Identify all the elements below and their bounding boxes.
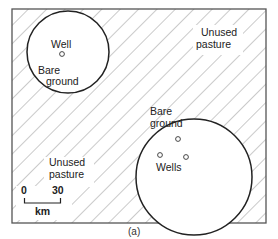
wells-label: Wells — [156, 161, 181, 173]
bare-ground-label-large-1: Bare — [150, 105, 172, 117]
large-bare-ground-area — [136, 119, 252, 235]
unused-pasture-label-top-1: Unused — [201, 26, 237, 38]
grazing-diagram: Well Bare ground Unused pasture Bare gro… — [0, 0, 278, 239]
well-label: Well — [51, 38, 71, 50]
scale-start-label: 0 — [21, 184, 27, 196]
scale-unit-label: km — [35, 205, 50, 217]
unused-pasture-label-bottom-2: pasture — [49, 168, 84, 180]
unused-pasture-label-bottom-1: Unused — [49, 156, 85, 168]
figure-caption: (a) — [128, 226, 140, 237]
bare-ground-label-small-2: ground — [46, 75, 79, 87]
bare-ground-label-large-2: ground — [150, 117, 183, 129]
scale-end-label: 30 — [52, 184, 64, 196]
unused-pasture-label-top-2: pasture — [196, 38, 231, 50]
